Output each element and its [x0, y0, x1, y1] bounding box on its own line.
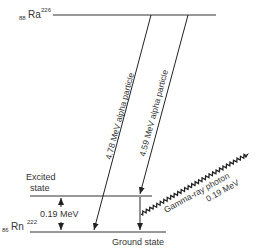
excited-label-2: state	[30, 183, 50, 193]
alpha-arrow-2	[140, 15, 188, 194]
ra-atomic-number: 88	[19, 15, 26, 21]
rn-mass-number: 222	[27, 219, 38, 225]
alpha-label-1: 4.78 MeV alpha particle	[103, 71, 136, 160]
ground-label: Ground state	[112, 237, 164, 247]
ra-symbol: Ra	[28, 9, 41, 20]
gamma-arrowhead	[244, 153, 249, 158]
rn-atomic-number: 86	[2, 227, 9, 233]
gap-energy-label: 0.19 MeV	[40, 209, 79, 219]
ra-mass-number: 226	[41, 7, 52, 13]
decay-diagram-svg: 88 Ra 226 Excited state 86 Rn 222 Ground…	[0, 0, 258, 250]
decay-diagram: 88 Ra 226 Excited state 86 Rn 222 Ground…	[0, 0, 258, 250]
rn-symbol: Rn	[11, 221, 24, 232]
excited-label-1: Excited	[26, 172, 56, 182]
